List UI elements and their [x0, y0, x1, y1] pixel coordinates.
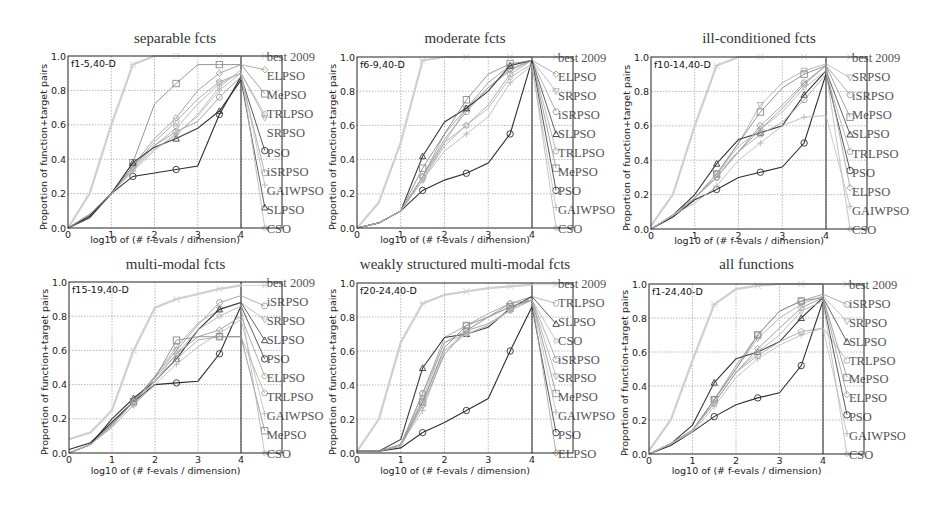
svg-text:3: 3 [776, 455, 782, 466]
series-elpso [649, 298, 850, 454]
plot-area: 012340.00.20.40.60.81.0best 2009iSRPSOSR… [0, 0, 946, 507]
legend-item: TRLPSO [849, 354, 896, 368]
svg-text:0.2: 0.2 [632, 415, 647, 426]
grid [649, 284, 864, 454]
svg-text:1: 1 [689, 455, 695, 466]
series-lines [649, 281, 850, 456]
svg-text:0.8: 0.8 [632, 313, 647, 324]
svg-text:1.0: 1.0 [632, 279, 647, 290]
legend-item: PSO [849, 410, 872, 424]
series-cso [649, 301, 849, 456]
legend-item: best 2009 [849, 278, 897, 292]
legend-item: iSRPSO [849, 297, 891, 311]
svg-text:0.0: 0.0 [632, 449, 647, 460]
svg-text:2: 2 [733, 455, 739, 466]
series-pso [649, 301, 850, 454]
legend-item: MePSO [849, 372, 889, 386]
svg-text:4: 4 [820, 455, 826, 466]
series-mepso [649, 298, 850, 454]
series-slpso [649, 298, 850, 454]
legend-item: SRPSO [849, 316, 887, 330]
legend-item: GAIWPSO [849, 429, 906, 443]
legend-item: ELPSO [849, 391, 887, 405]
legend-item: SLPSO [849, 335, 887, 349]
svg-text:0.6: 0.6 [632, 347, 647, 358]
legend-item: CSO [849, 448, 873, 462]
legend: best 2009iSRPSOSRPSOSLPSOTRLPSOMePSOELPS… [849, 278, 906, 462]
subset-annotation: f1-24,40-D [652, 286, 703, 297]
series-srpso [649, 296, 850, 454]
svg-text:0.4: 0.4 [632, 381, 647, 392]
